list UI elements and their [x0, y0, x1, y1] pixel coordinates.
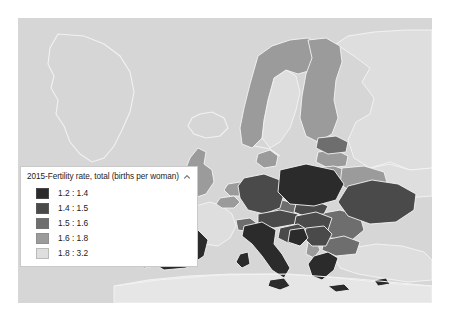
legend-swatch: [36, 218, 49, 229]
map-viewport: 2015-Fertility rate, total (births per w…: [0, 0, 450, 322]
legend-header: 2015-Fertility rate, total (births per w…: [27, 172, 191, 182]
legend-item-label: 1.4 : 1.5: [58, 203, 88, 214]
legend-item[interactable]: 1.8 : 3.2: [27, 247, 191, 259]
chevron-up-icon[interactable]: [183, 173, 191, 181]
legend-item-label: 1.8 : 3.2: [58, 248, 88, 259]
map-legend[interactable]: 2015-Fertility rate, total (births per w…: [20, 166, 198, 267]
region-poland: [278, 164, 344, 206]
legend-swatch: [36, 188, 49, 199]
legend-item[interactable]: 1.5 : 1.6: [27, 217, 191, 229]
legend-item-label: 1.2 : 1.4: [58, 188, 88, 199]
legend-item[interactable]: 1.4 : 1.5: [27, 202, 191, 214]
legend-item-label: 1.5 : 1.6: [58, 218, 88, 229]
legend-items: 1.2 : 1.4 1.4 : 1.5 1.5 : 1.6 1.6 : 1.8 …: [27, 187, 191, 259]
legend-item[interactable]: 1.2 : 1.4: [27, 187, 191, 199]
legend-swatch: [36, 203, 49, 214]
legend-title: 2015-Fertility rate, total (births per w…: [27, 172, 179, 182]
legend-swatch: [36, 233, 49, 244]
region-belgium: [216, 196, 240, 208]
legend-swatch: [36, 248, 49, 259]
legend-item[interactable]: 1.6 : 1.8: [27, 232, 191, 244]
legend-item-label: 1.6 : 1.8: [58, 233, 88, 244]
